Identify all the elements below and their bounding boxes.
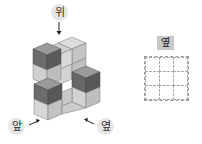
answer-grid[interactable]: [144, 56, 189, 101]
grid-cell[interactable]: [173, 57, 188, 72]
top-view-label: 위: [51, 4, 68, 21]
grid-cell[interactable]: [173, 71, 188, 86]
front-view-label: 앞: [8, 118, 25, 135]
side-view-label: 옆: [97, 118, 114, 135]
grid-cell[interactable]: [145, 57, 160, 72]
grid-cell[interactable]: [173, 85, 188, 100]
grid-cell[interactable]: [145, 85, 160, 100]
side-view-tag: 옆: [157, 36, 174, 50]
grid-cell[interactable]: [159, 57, 174, 72]
grid-cell[interactable]: [145, 71, 160, 86]
grid-cell[interactable]: [159, 71, 174, 86]
grid-cell[interactable]: [159, 85, 174, 100]
